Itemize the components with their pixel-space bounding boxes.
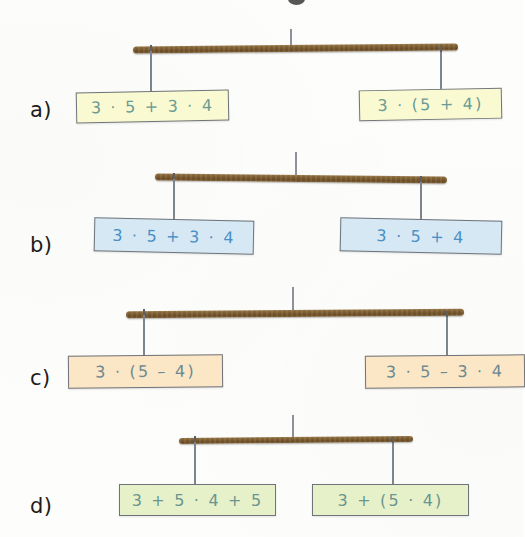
balance-beam-c: [126, 309, 464, 319]
expression-box-c-right[interactable]: 3 · 5 – 3 · 4: [365, 354, 525, 388]
expression-text-a-left: 3 · 5 + 3 · 4: [91, 96, 215, 117]
row-label-b: b): [30, 233, 53, 257]
hanger-string-left-d: [194, 442, 196, 488]
hanger-string-right-d: [392, 443, 394, 488]
balance-beam-d: [179, 436, 413, 444]
expression-text-d-right: 3 + (5 · 4): [337, 491, 443, 510]
expression-box-d-left[interactable]: 3 + 5 · 4 + 5: [119, 484, 276, 516]
row-label-c: c): [30, 366, 51, 390]
expression-box-d-right[interactable]: 3 + (5 · 4): [312, 484, 469, 516]
expression-text-c-right: 3 · 5 – 3 · 4: [386, 361, 504, 381]
expression-text-b-left: 3 · 5 + 3 · 4: [112, 225, 236, 247]
row-label-a: a): [30, 98, 52, 122]
expression-text-a-right: 3 · (5 + 4): [377, 94, 483, 115]
pivot-post-d: [292, 415, 294, 439]
expression-box-a-left[interactable]: 3 · 5 + 3 · 4: [76, 90, 230, 124]
balance-beam-a: [133, 44, 458, 54]
expression-box-b-left[interactable]: 3 · 5 + 3 · 4: [94, 217, 255, 254]
pivot-post-c: [292, 287, 294, 312]
hanger-string-right-a: [440, 52, 442, 92]
expression-text-d-left: 3 + 5 · 4 + 5: [132, 491, 264, 510]
expression-box-b-right[interactable]: 3 · 5 + 4: [340, 217, 503, 254]
hanger-string-right-c: [446, 317, 448, 359]
hanger-string-left-a: [150, 51, 152, 95]
expression-box-c-left[interactable]: 3 · (5 – 4): [68, 354, 223, 388]
top-crop-artifact: [288, 0, 305, 5]
expression-text-c-left: 3 · (5 – 4): [95, 362, 196, 382]
row-label-d: d): [30, 494, 53, 518]
expression-text-b-right: 3 · 5 + 4: [376, 226, 466, 247]
hanger-string-left-c: [143, 315, 145, 359]
balance-beam-b: [155, 173, 447, 183]
expression-box-a-right[interactable]: 3 · (5 + 4): [359, 88, 503, 122]
